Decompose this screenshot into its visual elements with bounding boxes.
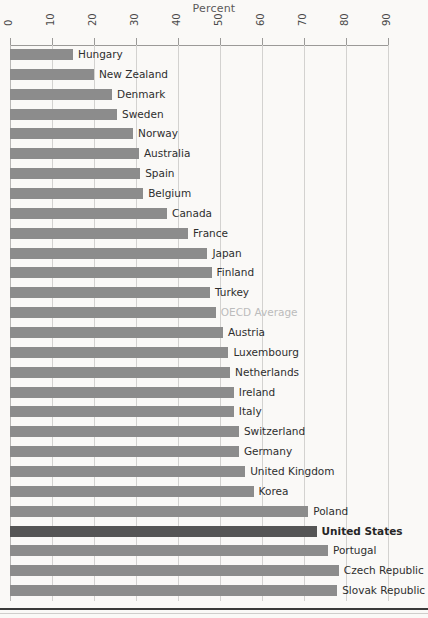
bar-turkey[interactable] xyxy=(10,287,210,298)
bar-row[interactable]: Spain xyxy=(10,164,388,184)
bar-label-ireland: Ireland xyxy=(234,385,275,399)
bar-row[interactable]: Belgium xyxy=(10,184,388,204)
bar-label-luxembourg: Luxembourg xyxy=(228,345,298,359)
tick-label-60: 60 xyxy=(256,13,266,26)
bar-label-finland: Finland xyxy=(212,265,255,279)
tick-label-70: 70 xyxy=(298,13,308,26)
bar-row[interactable]: Canada xyxy=(10,204,388,224)
bar-label-germany: Germany xyxy=(239,444,292,458)
bar-czech-republic[interactable] xyxy=(10,565,339,576)
bar-belgium[interactable] xyxy=(10,188,143,199)
bar-row[interactable]: Poland xyxy=(10,502,388,522)
bar-label-denmark: Denmark xyxy=(112,87,165,101)
bar-row[interactable]: United Kingdom xyxy=(10,462,388,482)
bar-row[interactable]: France xyxy=(10,224,388,244)
plot-area: HungaryNew ZealandDenmarkSwedenNorwayAus… xyxy=(10,45,388,601)
bar-label-turkey: Turkey xyxy=(210,285,249,299)
bar-slovak-republic[interactable] xyxy=(10,585,337,596)
bar-france[interactable] xyxy=(10,228,188,239)
footer-rule-light xyxy=(0,613,428,614)
bar-row[interactable]: Luxembourg xyxy=(10,343,388,363)
bar-germany[interactable] xyxy=(10,446,239,457)
bar-row[interactable]: Korea xyxy=(10,482,388,502)
bar-denmark[interactable] xyxy=(10,89,112,100)
bar-label-norway: Norway xyxy=(133,126,178,140)
tick-label-90: 90 xyxy=(382,13,392,26)
bar-row[interactable]: Czech Republic xyxy=(10,561,388,581)
bar-row[interactable]: Turkey xyxy=(10,283,388,303)
bar-label-australia: Australia xyxy=(139,146,190,160)
bar-hungary[interactable] xyxy=(10,49,73,60)
bar-row[interactable]: New Zealand xyxy=(10,65,388,85)
bar-label-spain: Spain xyxy=(140,166,174,180)
bar-row[interactable]: Switzerland xyxy=(10,422,388,442)
bar-row[interactable]: Finland xyxy=(10,263,388,283)
bar-label-korea: Korea xyxy=(254,484,289,498)
bar-label-united-kingdom: United Kingdom xyxy=(245,464,334,478)
bar-austria[interactable] xyxy=(10,327,223,338)
tick-label-20: 20 xyxy=(88,13,98,26)
bar-label-france: France xyxy=(188,226,228,240)
bar-label-slovak-republic: Slovak Republic xyxy=(337,583,425,597)
bar-finland[interactable] xyxy=(10,267,212,278)
bar-row[interactable]: OECD Average xyxy=(10,303,388,323)
bar-label-oecd-average: OECD Average xyxy=(216,305,298,319)
bar-italy[interactable] xyxy=(10,406,234,417)
bar-australia[interactable] xyxy=(10,148,139,159)
tick-label-40: 40 xyxy=(172,13,182,26)
bar-label-portugal: Portugal xyxy=(328,543,377,557)
bar-label-poland: Poland xyxy=(308,504,348,518)
bar-row[interactable]: United States xyxy=(10,522,388,542)
bar-label-italy: Italy xyxy=(234,404,262,418)
bar-luxembourg[interactable] xyxy=(10,347,228,358)
bar-label-canada: Canada xyxy=(167,206,212,220)
bar-switzerland[interactable] xyxy=(10,426,239,437)
bar-sweden[interactable] xyxy=(10,109,117,120)
bar-label-czech-republic: Czech Republic xyxy=(339,563,424,577)
bar-row[interactable]: Germany xyxy=(10,442,388,462)
bar-label-netherlands: Netherlands xyxy=(230,365,299,379)
bar-label-new-zealand: New Zealand xyxy=(94,67,168,81)
bar-row[interactable]: Hungary xyxy=(10,45,388,65)
bar-label-hungary: Hungary xyxy=(73,47,123,61)
bar-label-switzerland: Switzerland xyxy=(239,424,305,438)
bar-label-belgium: Belgium xyxy=(143,186,191,200)
bar-ireland[interactable] xyxy=(10,387,234,398)
tick-label-50: 50 xyxy=(214,13,224,26)
bar-united-states[interactable] xyxy=(10,526,317,537)
bar-portugal[interactable] xyxy=(10,545,328,556)
bar-row[interactable]: Netherlands xyxy=(10,363,388,383)
bar-united-kingdom[interactable] xyxy=(10,466,245,477)
bar-netherlands[interactable] xyxy=(10,367,230,378)
bar-japan[interactable] xyxy=(10,248,207,259)
tick-label-10: 10 xyxy=(46,13,56,26)
bar-label-japan: Japan xyxy=(207,246,241,260)
gridline-90 xyxy=(388,45,389,601)
tick-label-30: 30 xyxy=(130,13,140,26)
bar-row[interactable]: Australia xyxy=(10,144,388,164)
tick-label-0: 0 xyxy=(4,20,14,26)
bar-row[interactable]: Ireland xyxy=(10,383,388,403)
bar-row[interactable]: Portugal xyxy=(10,541,388,561)
bar-new-zealand[interactable] xyxy=(10,69,94,80)
bar-row[interactable]: Norway xyxy=(10,124,388,144)
bar-label-united-states: United States xyxy=(317,524,403,538)
bar-poland[interactable] xyxy=(10,506,308,517)
bar-oecd-average[interactable] xyxy=(10,307,216,318)
bar-korea[interactable] xyxy=(10,486,254,497)
tick-label-80: 80 xyxy=(340,13,350,26)
bar-row[interactable]: Slovak Republic xyxy=(10,581,388,601)
bar-row[interactable]: Italy xyxy=(10,402,388,422)
bar-label-sweden: Sweden xyxy=(117,107,164,121)
bar-row[interactable]: Japan xyxy=(10,244,388,264)
footer-rule xyxy=(0,608,428,610)
bar-row[interactable]: Denmark xyxy=(10,85,388,105)
chart-root: Percent 0102030405060708090 HungaryNew Z… xyxy=(0,0,428,618)
bar-canada[interactable] xyxy=(10,208,167,219)
bar-norway[interactable] xyxy=(10,128,133,139)
bar-row[interactable]: Austria xyxy=(10,323,388,343)
bar-label-austria: Austria xyxy=(223,325,265,339)
bar-row[interactable]: Sweden xyxy=(10,105,388,125)
bar-spain[interactable] xyxy=(10,168,140,179)
